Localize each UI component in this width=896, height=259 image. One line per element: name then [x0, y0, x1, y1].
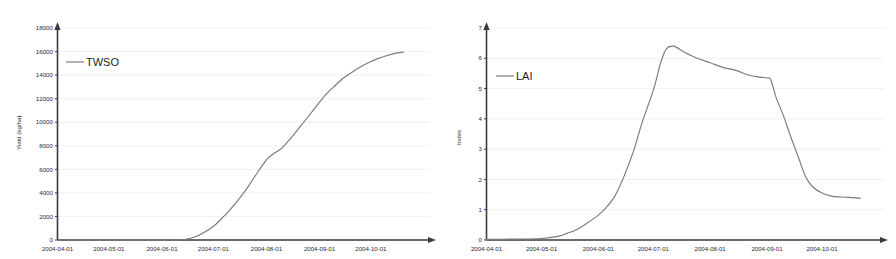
lai-y-axis-title: Index [455, 129, 462, 145]
x-tick-label: 2004-05-01 [526, 245, 558, 252]
x-tick-label: 2004-09-01 [304, 245, 336, 252]
y-tick-label: 12000 [36, 95, 54, 102]
y-tick-label: 1 [479, 206, 483, 213]
y-axis-arrowhead [483, 22, 489, 30]
twso-y-tick-labels: 0200040006000800010000120001400016000180… [36, 24, 58, 243]
y-axis-arrowhead [54, 22, 60, 30]
y-tick-label: 2000 [39, 213, 53, 220]
y-tick-label: 0 [479, 236, 483, 243]
x-tick-label: 2004-09-01 [751, 245, 783, 252]
lai-legend: LAI [496, 70, 533, 82]
lai-y-tick-labels: 01234567 [479, 24, 487, 243]
x-tick-label: 2004-07-01 [638, 245, 670, 252]
twso-x-tick-labels: 2004-04-012004-05-012004-06-012004-07-01… [42, 245, 387, 252]
x-tick-label: 2004-06-01 [146, 245, 178, 252]
lai-gridlines [487, 28, 885, 210]
y-tick-label: 18000 [36, 24, 54, 31]
y-tick-label: 5 [479, 85, 483, 92]
y-tick-label: 10000 [36, 118, 54, 125]
y-tick-label: 8000 [39, 142, 53, 149]
y-tick-label: 3 [479, 145, 483, 152]
y-tick-label: 4 [479, 115, 483, 122]
charts-row: 0200040006000800010000120001400016000180… [0, 0, 896, 259]
lai-x-tick-labels: 2004-04-012004-05-012004-06-012004-07-01… [471, 245, 838, 252]
x-tick-label: 2004-04-01 [42, 245, 74, 252]
x-axis-arrowhead [428, 237, 436, 243]
x-tick-label: 2004-06-01 [583, 245, 615, 252]
x-tick-label: 2004-04-01 [471, 245, 503, 252]
twso-legend: TWSO [66, 56, 119, 68]
y-tick-label: 7 [479, 24, 483, 31]
y-tick-label: 0 [50, 236, 54, 243]
x-tick-label: 2004-10-01 [806, 245, 838, 252]
x-tick-label: 2004-08-01 [695, 245, 727, 252]
y-tick-label: 14000 [36, 71, 54, 78]
x-axis-arrowhead [880, 237, 888, 243]
twso-y-axis [54, 22, 60, 240]
y-tick-label: 2 [479, 176, 483, 183]
lai-data-line [487, 46, 861, 239]
lai-legend-label: LAI [516, 70, 533, 82]
twso-chart: 0200040006000800010000120001400016000180… [0, 0, 448, 259]
x-tick-label: 2004-07-01 [198, 245, 230, 252]
lai-panel: 01234567 2004-04-012004-05-012004-06-012… [448, 0, 896, 259]
lai-chart: 01234567 2004-04-012004-05-012004-06-012… [448, 0, 896, 259]
twso-legend-label: TWSO [86, 56, 119, 68]
twso-panel: 0200040006000800010000120001400016000180… [0, 0, 448, 259]
x-tick-label: 2004-10-01 [355, 245, 387, 252]
y-tick-label: 16000 [36, 48, 54, 55]
x-tick-label: 2004-08-01 [251, 245, 283, 252]
lai-y-axis [483, 22, 489, 240]
y-tick-label: 6000 [39, 166, 53, 173]
y-tick-label: 4000 [39, 189, 53, 196]
x-tick-label: 2004-05-01 [93, 245, 125, 252]
twso-y-axis-title: Yield (kg/ha) [15, 115, 22, 150]
y-tick-label: 6 [479, 54, 483, 61]
